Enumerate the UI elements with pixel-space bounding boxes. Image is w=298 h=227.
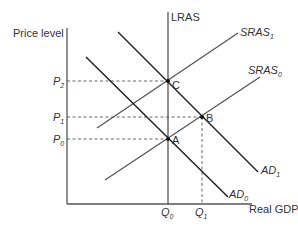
point-a-marker (166, 137, 170, 141)
ad-as-diagram: Price level Real GDP LRAS SRAS1 SRAS0 AD… (0, 0, 298, 227)
ad1-label: AD1 (260, 164, 280, 178)
ad0-curve (86, 57, 228, 197)
x-axis-label: Real GDP (249, 203, 298, 215)
point-b-marker (200, 115, 204, 119)
lras-label: LRAS (171, 11, 200, 23)
point-c-marker (166, 79, 170, 83)
ad1-curve (118, 32, 258, 172)
p1-label: P1 (53, 111, 64, 125)
ad0-label: AD0 (228, 188, 248, 202)
sras0-curve (105, 77, 260, 180)
sras1-label: SRAS1 (240, 26, 274, 40)
p0-label: P0 (53, 133, 64, 147)
sras0-label: SRAS0 (248, 64, 282, 78)
y-axis-label: Price level (13, 27, 64, 39)
point-c-label: C (172, 79, 180, 91)
q1-label: Q1 (195, 206, 208, 220)
q0-label: Q0 (161, 206, 174, 220)
p2-label: P2 (53, 75, 64, 89)
point-a-label: A (172, 134, 180, 146)
point-b-label: B (206, 112, 213, 124)
